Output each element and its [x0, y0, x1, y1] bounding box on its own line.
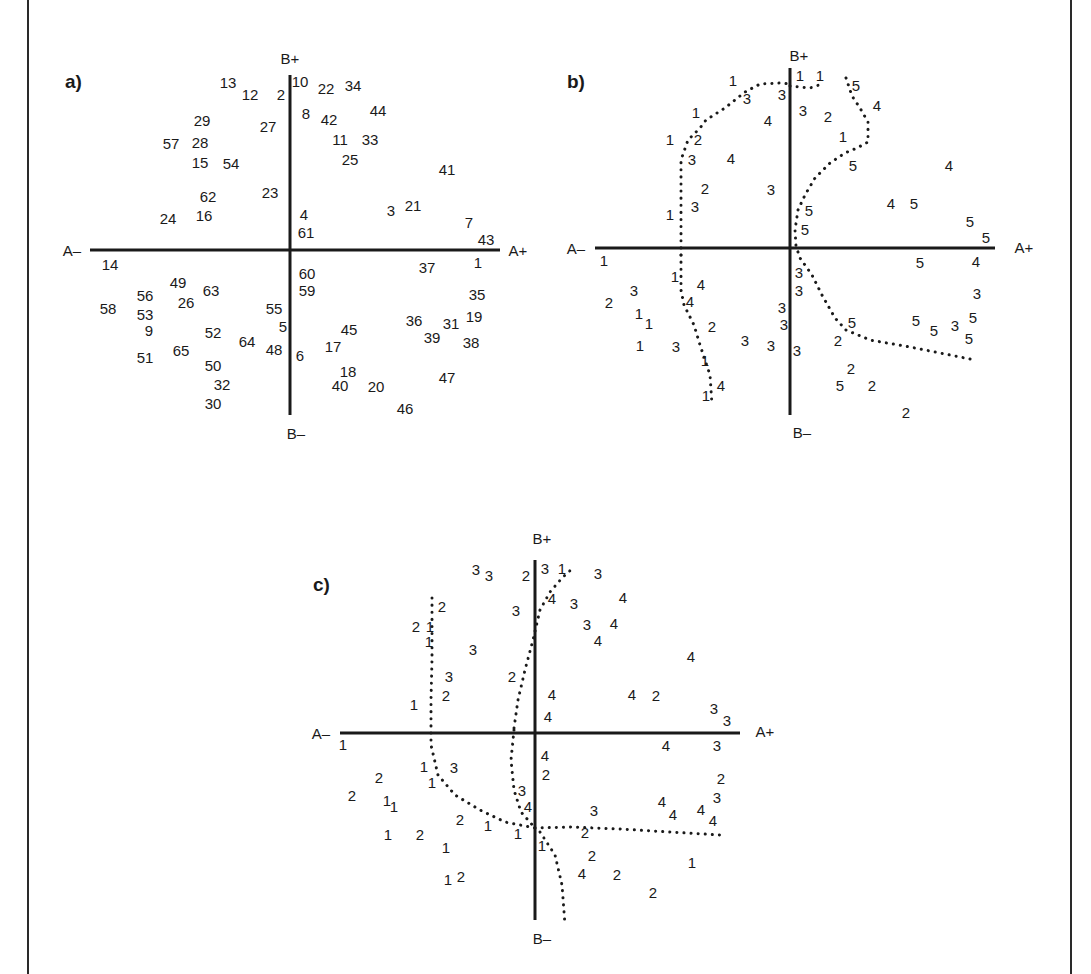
point-label: 1	[426, 619, 434, 634]
point-label: 1	[425, 634, 433, 649]
point-label: 1	[410, 697, 418, 712]
point-label: 4	[541, 748, 549, 763]
point-label: 4	[662, 738, 670, 753]
point-label: 1	[390, 799, 398, 814]
point-label: 4	[669, 807, 677, 822]
axis-label-a-minus: A–	[312, 725, 330, 742]
point-label: 1	[538, 838, 546, 853]
point-label: 2	[456, 812, 464, 827]
point-label: 4	[628, 687, 636, 702]
panel-c-ordination-class-codes: c) A– A+ B+ B– 3323132343421341344322442…	[0, 0, 1091, 974]
point-label: 3	[541, 561, 549, 576]
point-label: 4	[594, 633, 602, 648]
point-label: 1	[688, 855, 696, 870]
point-label: 2	[508, 669, 516, 684]
point-label: 2	[588, 848, 596, 863]
point-label: 1	[339, 737, 347, 752]
point-label: 2	[438, 599, 446, 614]
point-label: 3	[590, 803, 598, 818]
point-label: 2	[542, 767, 550, 782]
point-label: 3	[570, 596, 578, 611]
point-label: 4	[658, 794, 666, 809]
point-label: 1	[514, 826, 522, 841]
point-label: 4	[697, 802, 705, 817]
point-label: 1	[444, 872, 452, 887]
point-label: 4	[524, 799, 532, 814]
point-label: 1	[442, 840, 450, 855]
point-label: 2	[375, 770, 383, 785]
point-label: 3	[445, 669, 453, 684]
point-label: 2	[717, 771, 725, 786]
point-label: 3	[710, 701, 718, 716]
point-label: 2	[652, 688, 660, 703]
point-label: 4	[709, 813, 717, 828]
point-label: 2	[522, 568, 530, 583]
point-label: 2	[581, 825, 589, 840]
point-label: 2	[442, 688, 450, 703]
point-label: 1	[484, 818, 492, 833]
axis-label-b-plus: B+	[533, 530, 552, 547]
point-label: 3	[472, 562, 480, 577]
point-label: 3	[713, 738, 721, 753]
point-label: 3	[518, 783, 526, 798]
point-label: 3	[469, 642, 477, 657]
point-label: 4	[619, 590, 627, 605]
point-label: 1	[420, 759, 428, 774]
point-label: 4	[548, 687, 556, 702]
point-label: 3	[450, 760, 458, 775]
point-label: 1	[428, 775, 436, 790]
axis-label-a-plus: A+	[756, 723, 775, 740]
point-label: 2	[649, 885, 657, 900]
point-label: 3	[594, 566, 602, 581]
point-label: 4	[687, 649, 695, 664]
point-label: 2	[412, 619, 420, 634]
point-label: 2	[613, 867, 621, 882]
point-label: 2	[348, 788, 356, 803]
axis-label-b-minus: B–	[533, 930, 551, 947]
point-label: 3	[723, 713, 731, 728]
point-label: 2	[457, 869, 465, 884]
point-label: 4	[548, 591, 556, 606]
point-label: 3	[485, 568, 493, 583]
panel-label-c: c)	[313, 574, 330, 596]
point-label: 3	[713, 790, 721, 805]
point-label: 4	[544, 709, 552, 724]
point-label: 2	[416, 827, 424, 842]
point-label: 4	[610, 616, 618, 631]
point-label: 1	[384, 827, 392, 842]
point-label: 3	[583, 617, 591, 632]
point-label: 1	[558, 561, 566, 576]
point-label: 4	[578, 866, 586, 881]
point-label: 3	[512, 603, 520, 618]
